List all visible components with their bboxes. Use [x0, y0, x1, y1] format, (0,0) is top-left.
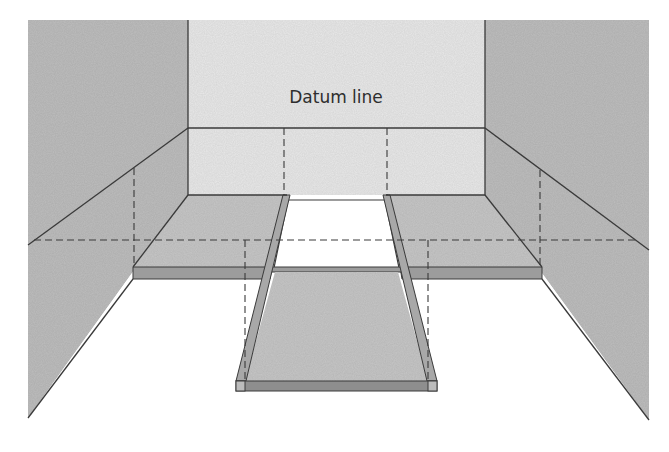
back-wall: [188, 20, 485, 195]
center-opening: [274, 200, 399, 268]
datum-line-label: Datum line: [289, 87, 383, 107]
center-platform-edge: [236, 381, 437, 391]
left-platform-edge: [133, 267, 272, 279]
right-platform-edge: [400, 267, 542, 279]
center-platform-top: [245, 272, 428, 381]
center-back-ledge: [270, 267, 402, 272]
center-edge-right-cap: [428, 381, 437, 391]
center-edge-left-cap: [236, 381, 245, 391]
datum-line-diagram: Datum line: [0, 0, 669, 452]
